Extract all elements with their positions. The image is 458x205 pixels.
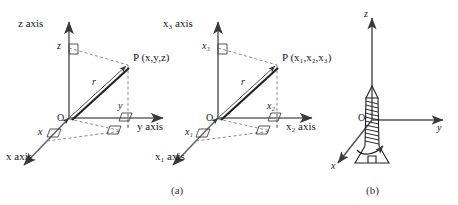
screw-shank-right <box>378 98 379 146</box>
right-angle-marker-x3 <box>218 44 227 54</box>
r-vector-label: r <box>92 76 96 87</box>
dash-origin-to-foot-2 <box>218 119 271 131</box>
screw-base-flare <box>355 146 389 163</box>
panel-a-right-graphics <box>173 22 312 165</box>
b-y-axis-label: y <box>437 122 441 133</box>
b-x-axis-label: x <box>331 160 335 171</box>
r-vector-thick <box>72 68 129 120</box>
origin-label-a-left: O <box>57 112 64 123</box>
x3-projection-label: x₃ <box>202 40 210 51</box>
panel-a-left-graphics <box>24 22 163 165</box>
r-vector-thick-2 <box>221 68 278 120</box>
screw-base-notch <box>368 156 376 163</box>
y-axis-label: y axis <box>137 120 163 132</box>
dash-origin-to-foot <box>69 119 122 131</box>
origin-label-b: O <box>358 112 365 123</box>
x-projection-label: x <box>38 126 42 137</box>
panel-b-graphics <box>338 18 443 163</box>
caption-b: (b) <box>366 184 379 196</box>
right-angle-marker-x2 <box>268 113 281 121</box>
origin-label-a-right: O <box>206 112 213 123</box>
b-z-axis-label: z <box>364 8 368 19</box>
right-angle-marker-y <box>119 113 132 121</box>
z-axis-label: z axis <box>18 17 43 29</box>
right-angle-marker-z <box>69 44 78 54</box>
point-label-a-left: P (x,y,z) <box>133 51 169 63</box>
r-vector-label-2: r <box>241 76 245 87</box>
figure-canvas: z axis y axis x axis z y x O r P (x,y,z)… <box>0 0 458 205</box>
caption-a: (a) <box>171 184 183 196</box>
x1-projection-label: x₁ <box>185 126 193 137</box>
point-label-a-right: P (x₁,x₂,x₃) <box>282 51 331 63</box>
screw-illustration <box>355 86 389 163</box>
x1-axis-label: x₁ axis <box>155 150 185 162</box>
z-projection-label: z <box>57 40 61 51</box>
x2-projection-label: x₂ <box>267 100 275 111</box>
x2-axis-label: x₂ axis <box>286 120 316 132</box>
x3-axis-label: x₃ axis <box>163 17 193 29</box>
y-projection-label: y <box>118 100 122 111</box>
figure-vector-graphics <box>0 0 458 205</box>
x-axis-label: x axis <box>6 150 32 162</box>
